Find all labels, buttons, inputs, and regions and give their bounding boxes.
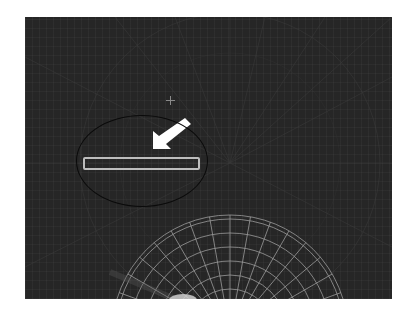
screenshot-stage [0,0,416,319]
3d-viewport-canvas[interactable] [25,17,392,299]
bright-object [169,294,197,299]
text-input-field[interactable] [83,157,200,170]
crosshair-icon [166,96,175,105]
